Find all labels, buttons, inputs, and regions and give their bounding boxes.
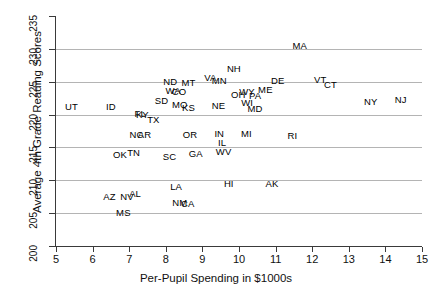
x-tick-label: 12 [297, 254, 327, 265]
x-tick [276, 247, 277, 252]
gridline-y [56, 82, 422, 83]
data-point-label: OR [183, 130, 197, 140]
x-tick [93, 247, 94, 252]
gridline-y [56, 147, 422, 148]
x-tick [166, 247, 167, 252]
data-point-label: HI [224, 179, 234, 189]
data-point-label: RI [288, 132, 298, 142]
data-point-label: DE [271, 76, 284, 86]
data-point-label: ID [106, 103, 116, 113]
x-tick-label: 13 [334, 254, 364, 265]
data-point-label: GA [189, 149, 203, 159]
x-tick [349, 247, 350, 252]
data-point-label: MT [182, 78, 196, 88]
data-point-label: MA [293, 41, 307, 51]
x-tick [312, 247, 313, 252]
x-tick-label: 6 [78, 254, 108, 265]
x-tick-label: 8 [151, 254, 181, 265]
x-axis-title: Per-Pupil Spending in $1000s [0, 272, 432, 284]
data-point-label: OK [113, 151, 127, 161]
data-point-label: MD [248, 105, 263, 115]
y-tick [49, 82, 55, 83]
y-tick [49, 49, 55, 50]
x-tick [129, 247, 130, 252]
x-tick-label: 7 [114, 254, 144, 265]
x-tick-label: 11 [261, 254, 291, 265]
x-tick [56, 247, 57, 252]
data-point-label: SD [155, 96, 168, 106]
data-point-label: NE [212, 101, 225, 111]
data-point-label: LA [170, 182, 182, 192]
x-tick-label: 10 [224, 254, 254, 265]
y-tick [49, 213, 55, 214]
data-point-label: FL [135, 109, 146, 119]
data-point-label: AL [129, 189, 141, 199]
data-point-label: MN [212, 76, 227, 86]
data-point-label: AZ [103, 192, 115, 202]
data-point-label: UT [65, 103, 78, 113]
data-point-label: NJ [395, 95, 407, 105]
data-point-label: MI [241, 129, 252, 139]
gridline-y [56, 213, 422, 214]
data-point-label: CA [181, 199, 194, 209]
gridline-y [56, 49, 422, 50]
x-tick [202, 247, 203, 252]
y-tick [49, 16, 55, 17]
y-tick [49, 246, 55, 247]
data-point-label: TN [127, 149, 140, 159]
plot-area: UTIDAZNVALMSOKTNNCARKYFLTXSDNDWACOMTMOKS… [56, 16, 422, 246]
x-tick-label: 15 [407, 254, 432, 265]
x-tick-label: 14 [370, 254, 400, 265]
x-tick-label: 5 [41, 254, 71, 265]
x-tick [239, 247, 240, 252]
data-point-label: WV [216, 147, 232, 157]
data-point-label: NY [364, 97, 377, 107]
data-point-label: NH [227, 64, 241, 74]
data-point-label: CT [324, 80, 337, 90]
y-tick [49, 115, 55, 116]
data-point-label: TX [147, 115, 159, 125]
data-point-label: SC [163, 152, 176, 162]
x-tick [422, 247, 423, 252]
x-tick [385, 247, 386, 252]
data-point-label: MS [116, 208, 130, 218]
data-point-label: KS [182, 103, 195, 113]
data-point-label: AR [138, 130, 151, 140]
y-tick [49, 147, 55, 148]
scatter-chart: Average 4th Grade Reading Scores UTIDAZN… [0, 0, 432, 296]
gridline-y [56, 180, 422, 181]
data-point-label: AK [266, 179, 279, 189]
y-tick [49, 180, 55, 181]
gridline-y [56, 115, 422, 116]
x-tick-label: 9 [187, 254, 217, 265]
